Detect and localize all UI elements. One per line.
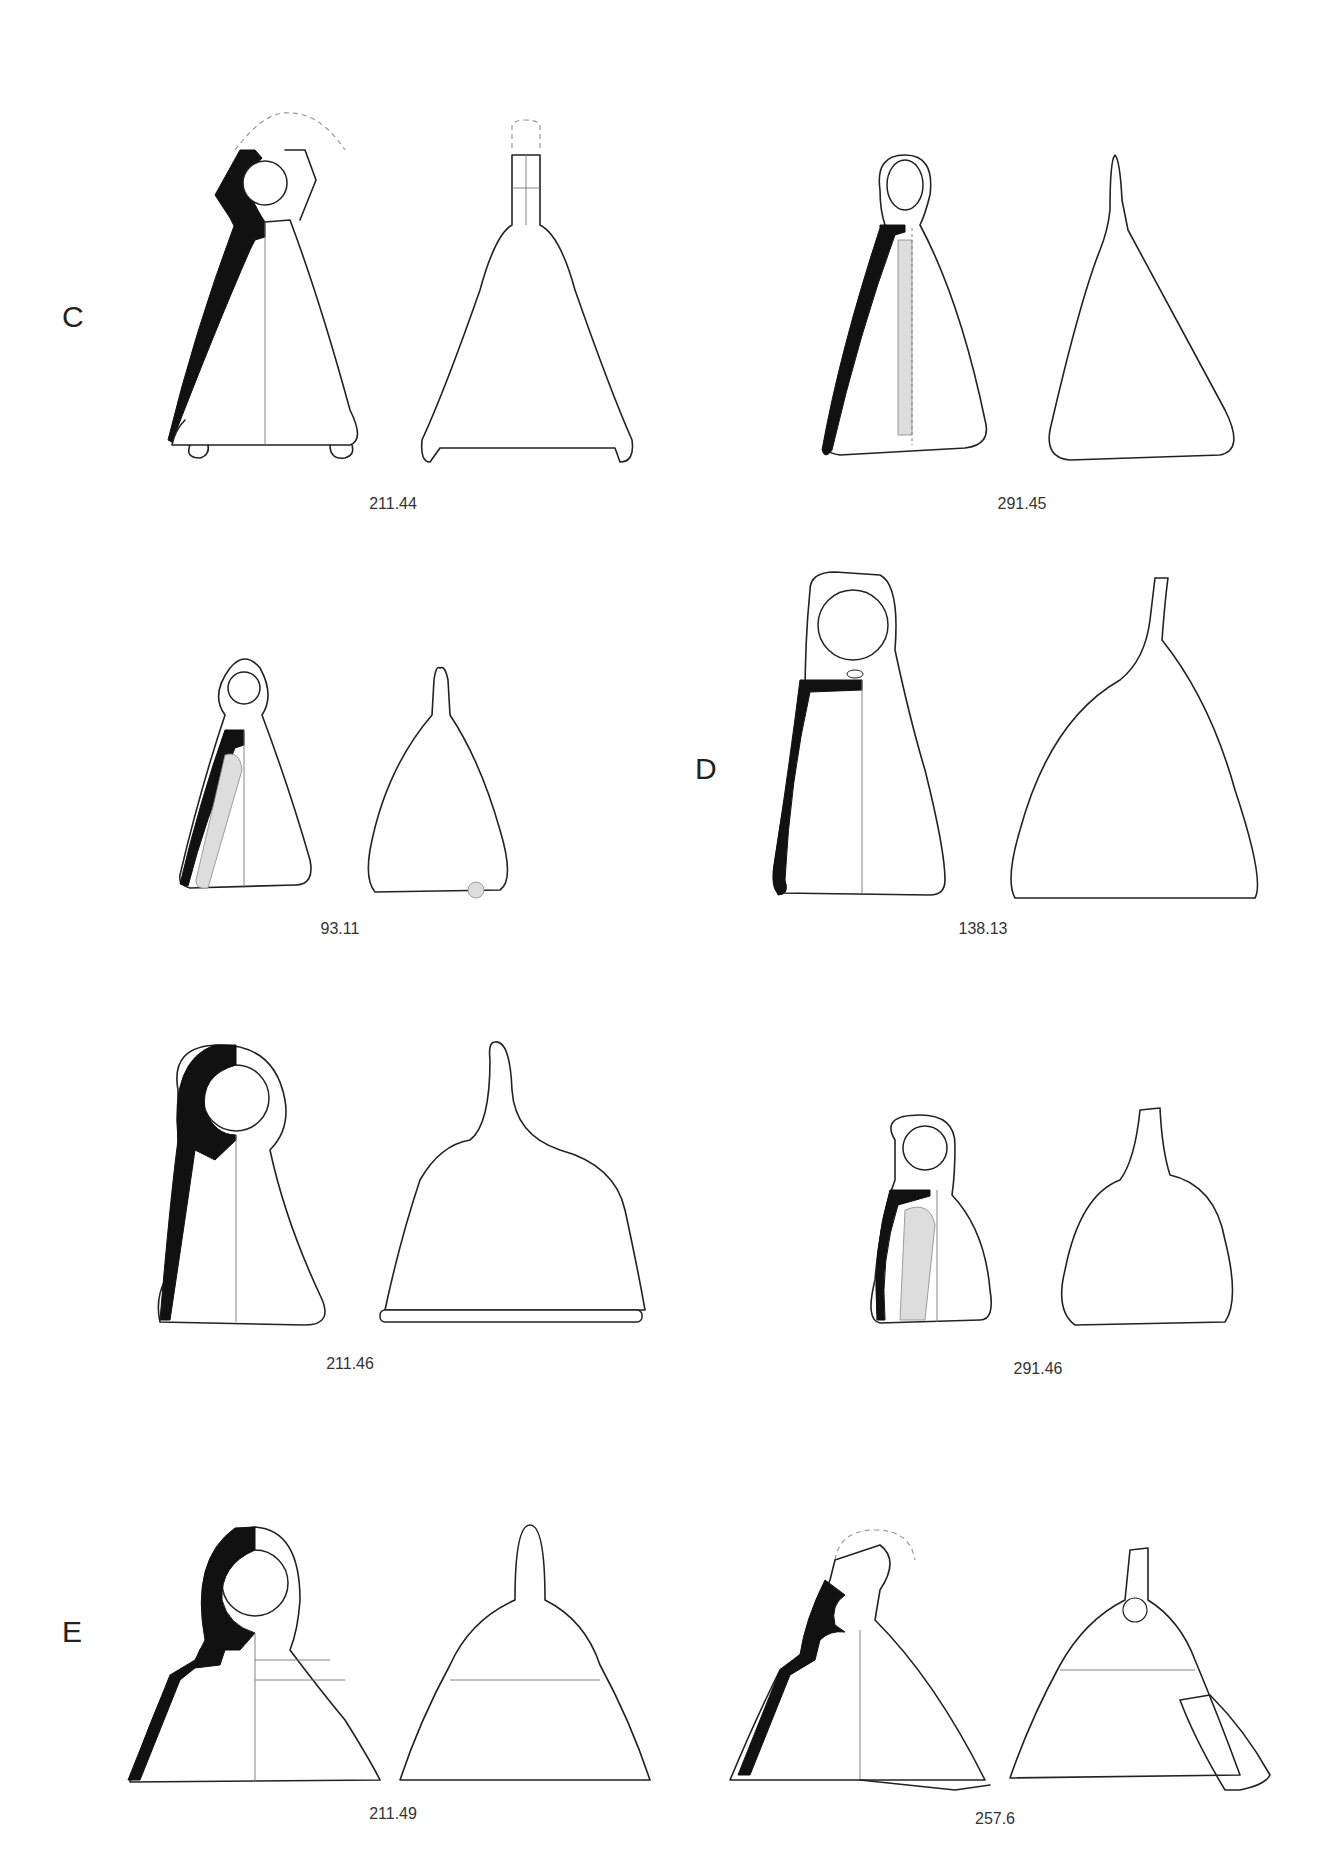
bell-291-45-elevation: [1049, 155, 1234, 460]
bell-211-46-elevation: [380, 1042, 645, 1322]
bell-93-11-section: [180, 659, 311, 888]
bell-138-13-section: [773, 572, 945, 895]
bell-291-45-section: [822, 155, 986, 455]
bell-211-44-section: [168, 113, 358, 458]
bell-257-6-elevation: [1010, 1548, 1270, 1790]
bell-drawings: [0, 0, 1342, 1871]
bell-93-11-elevation: [368, 668, 507, 899]
bell-211-49-section: [128, 1527, 380, 1782]
bell-211-44-elevation: [422, 120, 633, 462]
bell-211-46-section: [158, 1045, 325, 1325]
bell-138-13-elevation: [1011, 578, 1258, 898]
bell-257-6-section: [730, 1530, 990, 1790]
bell-211-49-elevation: [400, 1525, 650, 1780]
bell-291-46-section: [871, 1115, 991, 1323]
bell-291-46-elevation: [1062, 1108, 1233, 1325]
